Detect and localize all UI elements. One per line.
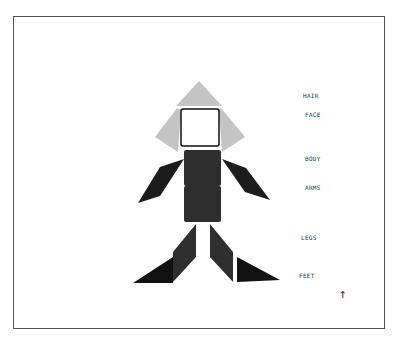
foot-shapes — [133, 257, 280, 283]
label-feet: FEET — [299, 272, 315, 279]
label-arms: ARMS — [305, 184, 321, 191]
up-arrow-icon: ↑ — [339, 286, 347, 301]
face-square — [181, 109, 219, 146]
label-body: BODY — [305, 155, 321, 162]
body-shapes — [184, 150, 221, 222]
leg-shapes — [173, 224, 233, 282]
label-legs: LEGS — [301, 234, 317, 241]
label-hair: HAIR — [303, 92, 319, 99]
label-face: FACE — [305, 111, 321, 118]
